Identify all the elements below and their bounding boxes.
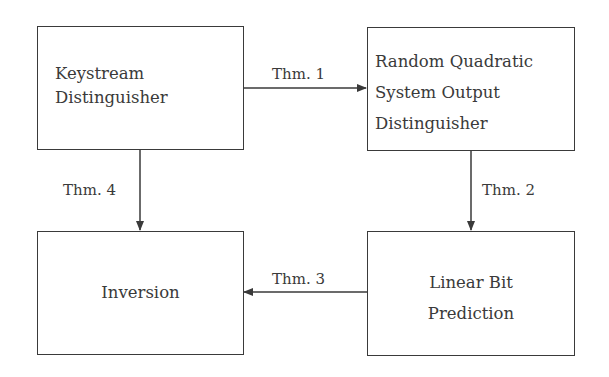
node-keystream-line-2: Distinguisher	[55, 86, 168, 110]
edge-label-thm4: Thm. 4	[63, 181, 116, 199]
node-linear-line-2: Prediction	[368, 298, 574, 329]
node-keystream-distinguisher: Keystream Distinguisher	[37, 26, 244, 150]
edge-label-thm1: Thm. 1	[272, 65, 325, 83]
node-random-quadratic-distinguisher: Random Quadratic System Output Distingui…	[367, 27, 575, 151]
node-inversion: Inversion	[37, 231, 244, 355]
node-linear-bit-prediction: Linear Bit Prediction	[367, 231, 575, 356]
edge-label-thm2: Thm. 2	[482, 181, 535, 199]
node-rqs-line-3: Distinguisher	[375, 108, 533, 139]
node-keystream-line-1: Keystream	[55, 62, 168, 86]
node-rqs-line-1: Random Quadratic	[375, 46, 533, 77]
edge-label-thm3: Thm. 3	[272, 270, 325, 288]
node-linear-line-1: Linear Bit	[368, 267, 574, 298]
node-inversion-line-1: Inversion	[38, 281, 243, 305]
node-rqs-line-2: System Output	[375, 77, 533, 108]
